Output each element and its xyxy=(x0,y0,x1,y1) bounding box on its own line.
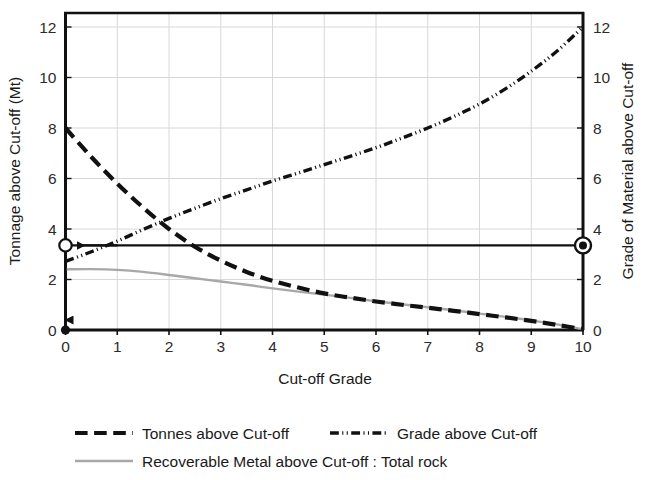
cut-off-grade-chart: 012345678910 024681012 024681012 Cut-off… xyxy=(0,0,645,480)
x-axis-title: Cut-off Grade xyxy=(278,370,372,387)
x-tick-label: 10 xyxy=(574,338,592,355)
y-tick-label: 10 xyxy=(39,69,57,86)
x-tick-label: 7 xyxy=(423,338,432,355)
y-tick-label: 2 xyxy=(48,271,57,288)
y2-tick-label: 8 xyxy=(593,120,602,137)
right-axis-tick-labels: 024681012 xyxy=(593,19,611,339)
y2-tick-label: 0 xyxy=(593,322,602,339)
y2-axis-title: Grade of Material above Cut-off xyxy=(619,62,636,280)
left-axis-tick-labels: 024681012 xyxy=(39,19,57,339)
y-tick-label: 12 xyxy=(39,19,56,36)
y-tick-label: 6 xyxy=(48,170,57,187)
y2-tick-label: 10 xyxy=(593,69,611,86)
vertical-gridlines xyxy=(66,12,584,330)
y2-tick-label: 12 xyxy=(593,19,610,36)
left-axis-marker xyxy=(59,239,71,251)
x-tick-label: 2 xyxy=(165,338,174,355)
y-tick-label: 4 xyxy=(48,221,57,238)
y2-tick-label: 6 xyxy=(593,170,602,187)
legend-label: Grade above Cut-off xyxy=(397,425,538,442)
x-tick-label: 5 xyxy=(320,338,329,355)
y-tick-label: 0 xyxy=(48,322,57,339)
chart-legend: Tonnes above Cut-offGrade above Cut-offR… xyxy=(75,425,538,470)
legend-label: Recoverable Metal above Cut-off : Total … xyxy=(142,453,448,470)
x-axis-tick-labels: 012345678910 xyxy=(61,338,592,355)
x-tick-label: 8 xyxy=(475,338,484,355)
x-tick-label: 0 xyxy=(61,338,70,355)
x-tick-label: 1 xyxy=(113,338,122,355)
y2-tick-label: 4 xyxy=(593,221,602,238)
x-tick-label: 9 xyxy=(527,338,536,355)
x-tick-label: 3 xyxy=(216,338,225,355)
origin-marker xyxy=(61,325,70,334)
x-tick-label: 6 xyxy=(372,338,381,355)
y-axis-title: Tonnage above Cut-off (Mt) xyxy=(6,77,23,265)
legend-label: Tonnes above Cut-off xyxy=(142,425,290,442)
right-axis-marker-dot xyxy=(579,241,587,249)
y2-tick-label: 2 xyxy=(593,271,602,288)
x-tick-label: 4 xyxy=(268,338,277,355)
y-tick-label: 8 xyxy=(48,120,57,137)
chart-figure: 012345678910 024681012 024681012 Cut-off… xyxy=(0,0,645,480)
